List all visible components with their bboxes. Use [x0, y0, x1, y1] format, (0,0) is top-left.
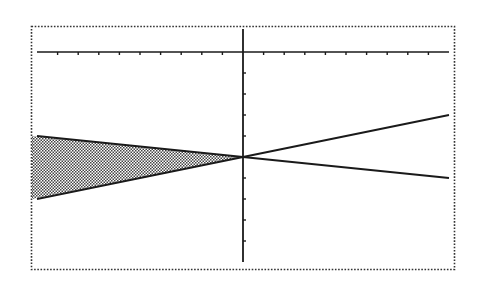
- graph-plot: [0, 0, 481, 284]
- graph-screen: [0, 0, 481, 284]
